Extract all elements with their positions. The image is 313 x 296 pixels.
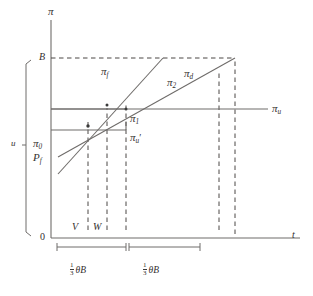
- curves-group: [51, 58, 268, 174]
- left-brace: [26, 60, 31, 236]
- p-f-subscript: f: [40, 157, 42, 165]
- pi-2-subscript: 2: [173, 82, 177, 90]
- interval-label-second: 1 3 θB: [143, 262, 159, 278]
- y-tick-label-b: B: [39, 52, 45, 62]
- pi-d-subscript: d: [190, 73, 194, 81]
- left-brace-group: [22, 60, 31, 236]
- curve-label-pi-2: π2: [167, 77, 176, 90]
- curve-label-pi-f: πf: [101, 66, 109, 79]
- level-label-pi-1: π1: [130, 113, 139, 126]
- origin-label: 0: [40, 232, 45, 242]
- axis-point-label-v: V: [72, 222, 78, 232]
- pi-u-subscript: u: [278, 108, 282, 116]
- interval-term-second: θB: [149, 265, 159, 275]
- figure-canvas: [0, 0, 313, 296]
- pi-f-line: [58, 58, 163, 174]
- x-axis-label: t: [292, 230, 295, 240]
- fraction-denominator: 3: [70, 269, 74, 277]
- fraction-one-third-first: 1 3: [70, 262, 74, 278]
- level-label-p-f: Pf: [33, 152, 42, 165]
- fraction-one-third-second: 1 3: [143, 262, 147, 278]
- interval-term-first: θB: [76, 265, 86, 275]
- level-label-pi-u: πu: [272, 103, 281, 116]
- pi-u-prime-mark: ′: [139, 132, 141, 143]
- fraction-numerator: 1: [143, 262, 147, 269]
- curve-label-pi-d: πd: [184, 68, 193, 81]
- y-axis-label: π: [48, 6, 54, 17]
- pi-f-subscript: f: [107, 71, 109, 79]
- pi-1-subscript: 1: [136, 118, 140, 126]
- interval-bracket-group: [57, 243, 200, 251]
- pi-0-subscript: 0: [39, 143, 43, 151]
- crossing-point-pi-f: [106, 104, 109, 107]
- level-label-pi-0: π0: [33, 138, 42, 151]
- pi-d-line: [58, 58, 235, 157]
- crossing-point-pi-d: [125, 108, 128, 111]
- left-bracket-label: u: [11, 139, 16, 148]
- crossing-point-main: [86, 124, 89, 127]
- fraction-denominator: 3: [143, 269, 147, 277]
- axis-point-label-w: W: [93, 222, 101, 232]
- fraction-numerator: 1: [70, 262, 74, 269]
- p-f-glyph: P: [33, 151, 40, 163]
- level-label-pi-u-prime: πu′: [130, 132, 141, 145]
- interval-label-first: 1 3 θB: [70, 262, 86, 278]
